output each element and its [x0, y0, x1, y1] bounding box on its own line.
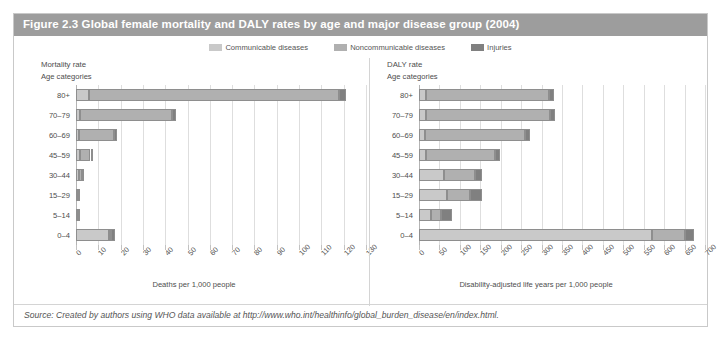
bar-segment	[82, 169, 84, 181]
chart-legend: Communicable diseases Noncommunicable di…	[14, 40, 707, 54]
bar-row	[76, 109, 366, 121]
daly-bars	[419, 85, 705, 245]
bar-segment	[419, 189, 447, 201]
figure-source-bar: Source: Created by authors using WHO dat…	[14, 304, 707, 326]
bar-segment	[114, 129, 117, 141]
legend-label-injuries: Injuries	[487, 43, 511, 52]
axis-tick-label: 40	[163, 245, 175, 257]
bar-segment	[426, 89, 549, 101]
bar-segment	[444, 169, 475, 181]
category-label: 80+	[57, 91, 70, 100]
bar-segment	[78, 189, 80, 201]
figure-card: Figure 2.3 Global female mortality and D…	[13, 13, 708, 327]
bar-segment	[91, 149, 93, 161]
bar-row	[76, 89, 366, 101]
legend-label-communicable: Communicable diseases	[225, 43, 308, 52]
axis-tick-label: 0	[417, 248, 426, 257]
category-label: 45–59	[49, 151, 70, 160]
figure-source-text: Source: Created by authors using WHO dat…	[24, 310, 499, 320]
category-label: 60–69	[392, 131, 413, 140]
bar-segment	[549, 89, 554, 101]
category-label: 15–29	[49, 191, 70, 200]
daly-plot-area	[419, 85, 705, 245]
category-label: 15–29	[392, 191, 413, 200]
bar-row	[76, 229, 366, 241]
bar-segment	[79, 129, 114, 141]
legend-item-injuries: Injuries	[471, 43, 511, 52]
bar-segment	[111, 229, 115, 241]
bar-segment	[425, 129, 525, 141]
mortality-y-axis-label: Age categories	[41, 72, 92, 81]
bar-row	[419, 89, 705, 101]
bar-row	[419, 109, 705, 121]
bar-row	[419, 149, 705, 161]
bar-segment	[339, 89, 346, 101]
bar-row	[419, 209, 705, 221]
mortality-chart-title: Mortality rate	[41, 60, 86, 69]
bar-segment	[76, 89, 89, 101]
axis-tick-label: 0	[74, 248, 83, 257]
bar-segment	[426, 109, 551, 121]
legend-swatch-communicable	[209, 44, 222, 51]
mortality-category-labels: 80+70–7960–6945–5930–4415–295–140–4	[24, 85, 74, 245]
bar-segment	[80, 149, 90, 161]
bar-segment	[419, 209, 431, 221]
gridline	[705, 85, 706, 245]
bar-row	[419, 229, 705, 241]
daly-category-labels: 80+70–7960–6945–5930–4415–295–140–4	[370, 85, 417, 245]
daly-y-axis-label: Age categories	[387, 72, 438, 81]
bar-row	[419, 169, 705, 181]
bar-segment	[441, 209, 451, 221]
legend-swatch-noncommunicable	[334, 44, 347, 51]
daly-chart-title: DALY rate	[387, 60, 422, 69]
bar-segment	[685, 229, 694, 241]
category-label: 80+	[400, 91, 413, 100]
category-label: 70–79	[392, 111, 413, 120]
mortality-x-axis-title: Deaths per 1,000 people	[24, 280, 364, 289]
bar-segment	[447, 189, 471, 201]
category-label: 60–69	[49, 131, 70, 140]
axis-tick-label: 10	[96, 245, 108, 257]
bar-segment	[172, 109, 176, 121]
axis-tick-label: 50	[437, 245, 449, 257]
category-label: 0–4	[57, 231, 70, 240]
category-label: 0–4	[400, 231, 413, 240]
bar-row	[76, 129, 366, 141]
category-label: 45–59	[392, 151, 413, 160]
bar-row	[76, 169, 366, 181]
bar-segment	[426, 149, 495, 161]
category-label: 5–14	[396, 211, 413, 220]
bar-segment	[89, 89, 339, 101]
daly-chart-panel: DALY rate Age categories 80+70–7960–6945…	[369, 58, 702, 306]
bar-segment	[550, 109, 555, 121]
legend-item-communicable: Communicable diseases	[209, 43, 308, 52]
bar-row	[419, 189, 705, 201]
category-label: 5–14	[53, 211, 70, 220]
gridline	[366, 85, 367, 245]
category-label: 70–79	[49, 111, 70, 120]
bar-row	[419, 129, 705, 141]
category-label: 30–44	[392, 171, 413, 180]
bar-segment	[475, 169, 482, 181]
bar-segment	[419, 149, 426, 161]
mortality-chart-panel: Mortality rate Age categories 80+70–7960…	[24, 58, 364, 306]
category-label: 30–44	[49, 171, 70, 180]
bar-segment	[652, 229, 685, 241]
bar-segment	[495, 149, 500, 161]
bar-segment	[419, 229, 652, 241]
figure-title: Figure 2.3 Global female mortality and D…	[23, 18, 519, 30]
bar-segment	[525, 129, 530, 141]
bar-segment	[419, 169, 444, 181]
legend-label-noncommunicable: Noncommunicable diseases	[350, 43, 445, 52]
mortality-bars	[76, 85, 366, 245]
figure-title-bar: Figure 2.3 Global female mortality and D…	[14, 14, 707, 36]
legend-swatch-injuries	[471, 44, 484, 51]
daly-x-axis-ticks: 0501001502002503003504004505005506006507…	[419, 245, 705, 279]
bar-segment	[419, 89, 426, 101]
bar-segment	[76, 229, 109, 241]
bar-row	[76, 149, 366, 161]
bar-segment	[431, 209, 441, 221]
mortality-x-axis-ticks: 0102030405060708090100110120130	[76, 245, 366, 279]
legend-item-noncommunicable: Noncommunicable diseases	[334, 43, 445, 52]
daly-x-axis-title: Disability-adjusted life years per 1,000…	[370, 280, 702, 289]
